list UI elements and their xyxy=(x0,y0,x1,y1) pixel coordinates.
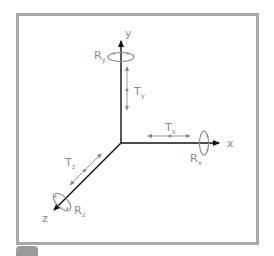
figure-tab-marker xyxy=(16,246,38,256)
ry-label: Ry xyxy=(94,49,106,64)
ty-label: Ty xyxy=(133,85,145,100)
tx-arrow-icon xyxy=(151,134,190,137)
ty-arrow-icon xyxy=(125,70,128,110)
z-axis-label: z xyxy=(42,212,48,225)
z-axis xyxy=(54,143,121,210)
tz-label: Tz xyxy=(64,156,76,171)
y-axis-label: y xyxy=(125,27,132,40)
tx-label: Tx xyxy=(164,121,176,136)
rx-label: Rx xyxy=(190,152,202,167)
x-axis-label: x xyxy=(227,137,234,150)
rz-label: Rz xyxy=(74,204,86,219)
